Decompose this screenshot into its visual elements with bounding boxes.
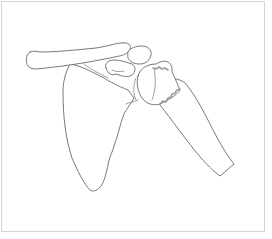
scapula [63, 64, 134, 191]
acromion [128, 46, 151, 64]
coracoid-process [105, 60, 135, 77]
shoulder-illustration [0, 0, 272, 239]
glenoid-rim [134, 78, 136, 100]
